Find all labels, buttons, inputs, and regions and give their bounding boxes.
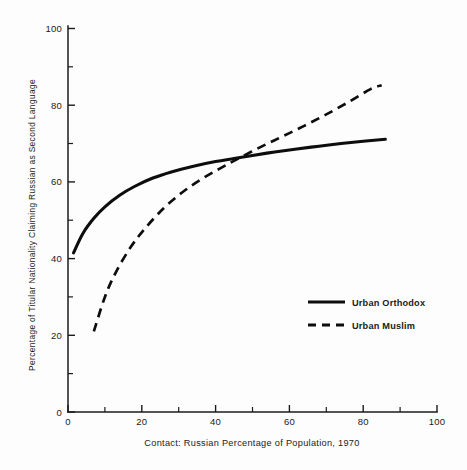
y-tick-label-80: 80 <box>51 100 62 111</box>
x-tick-label-80: 80 <box>358 416 369 427</box>
x-axis-ticks: 0 20 40 60 80 100 <box>65 405 445 427</box>
y-tick-label-0: 0 <box>57 407 62 418</box>
y-axis-ticks: 100 80 60 40 20 0 <box>46 23 75 418</box>
y-tick-label-60: 60 <box>51 176 62 187</box>
chart-figure: Percentage of Titular Nationality Claimi… <box>0 0 467 470</box>
y-tick-label-40: 40 <box>51 253 62 264</box>
y-tick-label-20: 20 <box>51 330 62 341</box>
x-tick-label-60: 60 <box>284 416 295 427</box>
y-axis-title-group: Percentage of Titular Nationality Claimi… <box>27 79 37 371</box>
x-axis-title: Contact: Russian Percentage of Populatio… <box>144 438 359 448</box>
series-line-urban-orthodox <box>74 139 386 253</box>
y-axis-title: Percentage of Titular Nationality Claimi… <box>27 79 37 371</box>
line-chart-canvas: Percentage of Titular Nationality Claimi… <box>0 0 467 470</box>
x-tick-label-100: 100 <box>429 416 445 427</box>
chart-legend: Urban Orthodox Urban Muslim <box>308 298 426 331</box>
x-tick-label-0: 0 <box>65 416 70 427</box>
y-tick-label-100: 100 <box>46 23 62 34</box>
series-line-urban-muslim <box>94 85 382 331</box>
x-tick-label-40: 40 <box>210 416 221 427</box>
legend-label-urban-orthodox: Urban Orthodox <box>352 298 426 308</box>
legend-label-urban-muslim: Urban Muslim <box>352 321 415 331</box>
axes <box>68 26 437 412</box>
x-tick-label-20: 20 <box>136 416 147 427</box>
